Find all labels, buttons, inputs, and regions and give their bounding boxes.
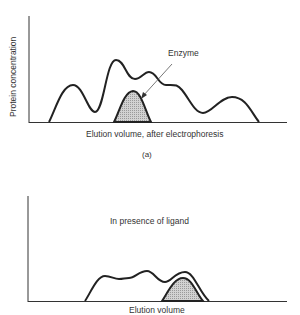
panel-a-chart bbox=[29, 16, 287, 123]
panel-a-x-axis-label: Elution volume, after electrophoresis bbox=[86, 129, 224, 139]
panel-a-caption: (a) bbox=[142, 150, 152, 159]
panel-b-annotation: In presence of ligand bbox=[110, 216, 189, 226]
panel-a-enzyme-arrow bbox=[143, 64, 172, 96]
panel-b-x-axis-label: Elution volume bbox=[129, 305, 185, 315]
panel-a-protein-curve bbox=[49, 60, 259, 122]
panel-a-y-axis-label: Protein concentration bbox=[8, 37, 18, 117]
panel-b-chart bbox=[28, 196, 287, 302]
panel-a-enzyme-label: Enzyme bbox=[168, 48, 199, 58]
